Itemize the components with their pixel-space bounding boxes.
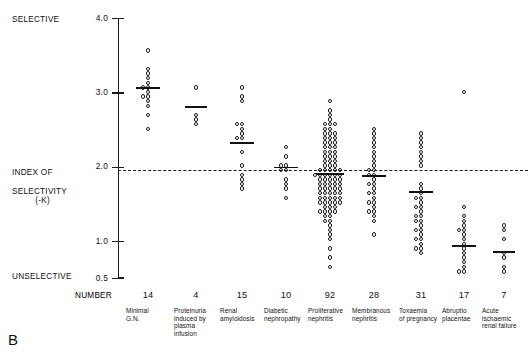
data-point: [146, 48, 150, 52]
data-point: [414, 205, 418, 209]
data-point: [372, 191, 376, 195]
column-name: Proliferative nephritis: [308, 307, 356, 322]
data-point: [323, 145, 327, 149]
column-name: Minimal G.N.: [126, 307, 174, 322]
data-point: [146, 99, 150, 103]
data-point: [462, 237, 466, 241]
data-point: [419, 237, 423, 241]
data-point: [414, 237, 418, 241]
data-point: [328, 223, 332, 227]
data-point: [414, 246, 418, 250]
data-point: [328, 214, 332, 218]
data-point: [419, 251, 423, 255]
mean-marker: [409, 191, 433, 193]
data-point: [333, 200, 337, 204]
data-point: [318, 200, 322, 204]
data-point: [141, 94, 145, 98]
data-point: [240, 85, 244, 89]
column-name: Toxaemia of pregnancy: [399, 307, 447, 322]
data-point: [318, 191, 322, 195]
data-point: [323, 191, 327, 195]
data-point: [323, 219, 327, 223]
data-point: [419, 246, 423, 250]
mean-marker: [230, 142, 254, 144]
data-point: [462, 246, 466, 250]
panel-letter: B: [8, 331, 18, 348]
data-point: [462, 205, 466, 209]
mean-marker: [362, 175, 386, 177]
data-point: [279, 168, 283, 172]
data-point: [372, 214, 376, 218]
data-point: [328, 237, 332, 241]
data-point: [323, 131, 327, 135]
data-point: [372, 154, 376, 158]
data-point: [328, 99, 332, 103]
data-point: [328, 191, 332, 195]
data-point: [419, 223, 423, 227]
data-point: [240, 99, 244, 103]
data-point: [323, 122, 327, 126]
data-point: [328, 265, 332, 269]
mean-marker: [136, 87, 160, 89]
data-point: [240, 177, 244, 181]
data-point: [240, 186, 244, 190]
data-point: [235, 136, 239, 140]
data-point: [284, 196, 288, 200]
figure-panel-b: SELECTIVE INDEX OF SELECTIVITY (-K) UNSE…: [0, 0, 532, 358]
data-point: [419, 163, 423, 167]
data-point: [414, 214, 418, 218]
data-point: [372, 219, 376, 223]
data-point: [372, 168, 376, 172]
data-point: [240, 131, 244, 135]
data-point: [318, 168, 322, 172]
data-point: [457, 228, 461, 232]
column-count: 10: [263, 290, 309, 300]
column-count: 92: [307, 290, 353, 300]
data-point: [333, 122, 337, 126]
data-point: [328, 122, 332, 126]
data-point: [284, 154, 288, 158]
data-point: [419, 154, 423, 158]
data-point: [502, 228, 506, 232]
data-point: [240, 136, 244, 140]
data-point: [284, 186, 288, 190]
data-point: [419, 200, 423, 204]
data-point: [328, 177, 332, 181]
data-point: [414, 228, 418, 232]
column-count: 7: [481, 290, 527, 300]
mean-marker: [185, 106, 207, 108]
data-point: [240, 150, 244, 154]
column-count: 4: [173, 290, 219, 300]
data-point: [146, 76, 150, 80]
data-point: [372, 177, 376, 181]
data-point: [502, 255, 506, 259]
data-point: [333, 177, 337, 181]
data-point: [146, 104, 150, 108]
data-point: [323, 177, 327, 181]
data-point: [338, 200, 342, 204]
column-count: 14: [125, 290, 171, 300]
data-point: [367, 200, 371, 204]
data-point: [328, 255, 332, 259]
data-point: [367, 209, 371, 213]
data-point: [338, 177, 342, 181]
data-point: [419, 145, 423, 149]
data-point: [328, 246, 332, 250]
data-point: [328, 200, 332, 204]
data-point: [240, 122, 244, 126]
data-point: [457, 269, 461, 273]
data-point: [146, 113, 150, 117]
data-point: [333, 209, 337, 213]
data-point: [372, 200, 376, 204]
mean-marker: [316, 173, 344, 175]
column-count: 28: [351, 290, 397, 300]
mean-marker: [274, 167, 298, 169]
data-point: [323, 168, 327, 172]
data-point: [333, 154, 337, 158]
data-point: [318, 177, 322, 181]
column-name: Diabetic nephropathy: [264, 307, 312, 322]
data-point: [284, 177, 288, 181]
data-point: [323, 154, 327, 158]
column-count: 15: [219, 290, 265, 300]
data-point: [502, 237, 506, 241]
